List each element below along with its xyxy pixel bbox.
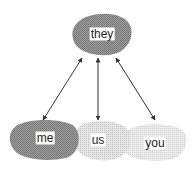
node-us-label: us [91,134,106,147]
node-me-label: me [36,132,55,145]
node-they-label: they [90,28,115,41]
edge-they-you [116,58,155,120]
edge-they-me [43,58,82,120]
node-you-label: you [144,137,165,150]
